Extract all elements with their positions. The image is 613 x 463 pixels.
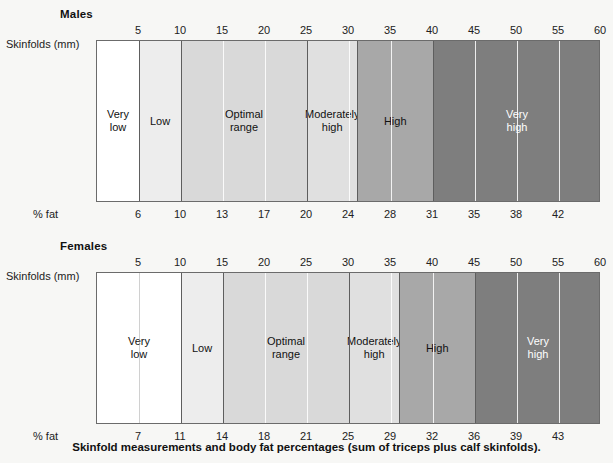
gridline [349, 41, 350, 201]
males-skinfolds-axis-label: Skinfolds (mm) [6, 38, 79, 50]
band-divider [349, 273, 350, 423]
skinfold-tick: 25 [300, 24, 312, 36]
skinfold-tick: 5 [135, 256, 141, 268]
band-divider [181, 41, 182, 201]
figure-caption: Skinfold measurements and body fat perce… [0, 441, 613, 453]
gridline [559, 41, 560, 201]
skinfold-tick: 55 [552, 256, 564, 268]
gridline [307, 273, 308, 423]
gridline [265, 41, 266, 201]
skinfold-tick: 40 [426, 24, 438, 36]
gridline [559, 273, 560, 423]
skinfold-tick: 10 [174, 24, 186, 36]
males-skinfolds-axis: 51015202530354045505560 [96, 24, 600, 38]
skinfold-tick: 20 [258, 24, 270, 36]
males-pct-fat-axis: 610131720242831353842 [96, 208, 600, 222]
gridline [517, 273, 518, 423]
gridline [391, 41, 392, 201]
skinfold-tick: 30 [342, 256, 354, 268]
band-divider [307, 41, 308, 201]
females-skinfolds-axis-label: Skinfolds (mm) [6, 270, 79, 282]
skinfold-tick: 30 [342, 24, 354, 36]
skinfold-tick: 40 [426, 256, 438, 268]
gridline [475, 41, 476, 201]
band-divider [433, 41, 434, 201]
skinfold-tick: 60 [594, 24, 606, 36]
category-band [223, 273, 349, 423]
skinfold-tick: 15 [216, 256, 228, 268]
band-divider [223, 273, 224, 423]
pct-fat-tick: 20 [300, 208, 312, 220]
category-band [181, 41, 307, 201]
skinfold-tick: 20 [258, 256, 270, 268]
males-section-title: Males [60, 8, 93, 20]
pct-fat-tick: 13 [216, 208, 228, 220]
pct-fat-tick: 17 [258, 208, 270, 220]
females-section-title: Females [60, 240, 107, 252]
pct-fat-tick: 28 [384, 208, 396, 220]
cropped-header-remnant [0, 0, 613, 7]
pct-fat-tick: 38 [510, 208, 522, 220]
gridline [139, 273, 140, 423]
pct-fat-tick: 31 [426, 208, 438, 220]
skinfold-tick: 35 [384, 256, 396, 268]
skinfold-tick: 45 [468, 24, 480, 36]
males-category-bar: VerylowLowOptimalrangeModeratelyhighHigh… [96, 40, 600, 202]
category-band [181, 273, 223, 423]
category-band [139, 41, 181, 201]
skinfold-tick: 45 [468, 256, 480, 268]
gridline [265, 273, 266, 423]
category-band [357, 41, 433, 201]
skinfold-tick: 50 [510, 24, 522, 36]
gridline [433, 273, 434, 423]
skinfold-body-fat-chart: Males Skinfolds (mm) 5101520253035404550… [0, 0, 613, 463]
band-divider [475, 273, 476, 423]
skinfold-tick: 25 [300, 256, 312, 268]
females-skinfolds-axis: 51015202530354045505560 [96, 256, 600, 270]
males-pct-fat-axis-label: % fat [33, 208, 58, 220]
skinfold-tick: 5 [135, 24, 141, 36]
skinfold-tick: 10 [174, 256, 186, 268]
skinfold-tick: 50 [510, 256, 522, 268]
category-band [399, 273, 475, 423]
gridline [391, 273, 392, 423]
gridline [223, 41, 224, 201]
band-divider [399, 273, 400, 423]
skinfold-tick: 60 [594, 256, 606, 268]
females-category-bar: VerylowLowOptimalrangeModeratelyhighHigh… [96, 272, 600, 424]
pct-fat-tick: 24 [342, 208, 354, 220]
category-band [97, 41, 139, 201]
pct-fat-tick: 10 [174, 208, 186, 220]
band-divider [181, 273, 182, 423]
gridline [517, 41, 518, 201]
pct-fat-tick: 35 [468, 208, 480, 220]
band-divider [139, 41, 140, 201]
category-band [475, 273, 600, 423]
skinfold-tick: 55 [552, 24, 564, 36]
skinfold-tick: 35 [384, 24, 396, 36]
pct-fat-tick: 6 [135, 208, 141, 220]
pct-fat-tick: 42 [552, 208, 564, 220]
band-divider [357, 41, 358, 201]
skinfold-tick: 15 [216, 24, 228, 36]
